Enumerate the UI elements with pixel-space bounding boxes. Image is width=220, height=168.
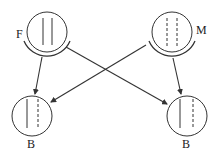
cell-circle [12,96,52,136]
cell-circle [167,96,207,136]
edge-f-to-b-right [66,47,167,104]
cell-circle [27,12,67,52]
edge-m-to-b-right [173,58,181,94]
label-mother: M [196,23,207,37]
node-child-left [12,96,52,136]
edge-f-to-b-left [35,57,42,94]
node-child-right [167,96,207,136]
label-child-right: B [182,137,190,151]
label-child-left: B [27,137,35,151]
label-father: F [16,27,23,41]
node-mother [149,12,195,56]
edge-m-to-b-left [51,45,146,102]
cell-circle [152,12,192,52]
inheritance-diagram: F M B B [0,0,220,168]
node-father [24,12,70,56]
